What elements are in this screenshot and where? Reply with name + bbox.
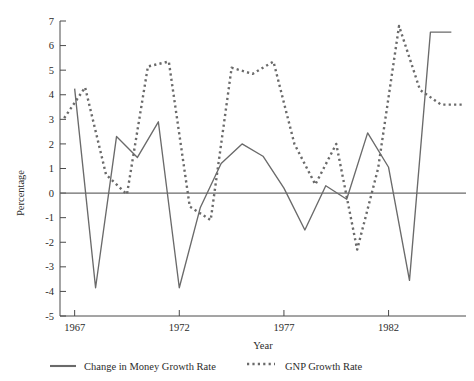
y-tick-label: 2	[49, 139, 54, 150]
x-axis-title: Year	[253, 340, 273, 351]
y-tick-label: -1	[45, 212, 54, 223]
y-axis-title: Percentage	[15, 170, 26, 216]
y-tick-label: 3	[49, 114, 54, 125]
percentage-vs-year-line-chart: Percentage -5-4-3-2-101234567 1967197219…	[0, 0, 474, 381]
x-tick-label: 1967	[64, 322, 85, 333]
chart-figure: Percentage -5-4-3-2-101234567 1967197219…	[0, 0, 474, 381]
y-tick-label: 0	[49, 188, 54, 199]
y-axis-title-group: Percentage	[15, 170, 26, 216]
data-series-layer	[64, 26, 462, 288]
y-tick-label: 1	[49, 163, 54, 174]
x-axis-ticks: 1967197219771982	[64, 310, 399, 333]
y-tick-label: 5	[49, 65, 54, 76]
y-axis-ticks: -5-4-3-2-101234567	[45, 16, 66, 322]
series-line-money-growth	[75, 32, 452, 288]
x-tick-label: 1977	[273, 322, 294, 333]
y-tick-label: -5	[45, 311, 54, 322]
x-tick-label: 1982	[378, 322, 399, 333]
legend-label-gnp: GNP Growth Rate	[285, 361, 363, 372]
y-tick-label: 7	[49, 16, 54, 27]
legend: Change in Money Growth Rate GNP Growth R…	[50, 361, 363, 372]
series-line-gnp-growth	[64, 26, 462, 250]
y-tick-label: 4	[49, 89, 55, 100]
y-tick-label: -2	[45, 237, 54, 248]
y-tick-label: -3	[45, 261, 54, 272]
y-tick-label: 6	[49, 40, 54, 51]
y-tick-label: -4	[45, 286, 54, 297]
x-tick-label: 1972	[169, 322, 190, 333]
legend-label-money: Change in Money Growth Rate	[84, 361, 216, 372]
